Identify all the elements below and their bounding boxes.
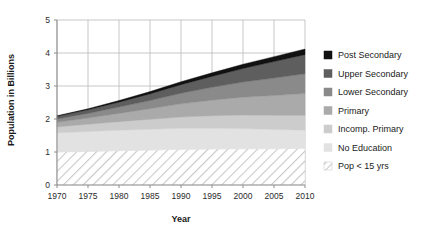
- y-tick-label: 4: [45, 48, 50, 58]
- x-tick-label: 1980: [110, 191, 129, 201]
- y-tick-label: 0: [45, 180, 50, 190]
- legend-item[interactable]: Post Secondary: [324, 50, 402, 60]
- x-tick-label: 2005: [265, 191, 284, 201]
- legend-label: Post Secondary: [338, 50, 402, 60]
- chart-canvas: 197019751980198519901995200020052010 012…: [0, 0, 430, 233]
- y-axis-tick-labels: 012345: [45, 15, 57, 190]
- legend-label: Lower Secondary: [338, 87, 409, 97]
- y-tick-label: 1: [45, 147, 50, 157]
- legend-swatch: [324, 162, 332, 170]
- legend-label: No Education: [338, 143, 392, 153]
- legend-label: Incomp. Primary: [338, 124, 404, 134]
- legend-label: Primary: [338, 106, 369, 116]
- legend-swatch: [324, 125, 332, 133]
- x-tick-label: 1970: [48, 191, 67, 201]
- legend-item[interactable]: No Education: [324, 143, 392, 153]
- legend-swatch: [324, 51, 332, 59]
- x-tick-label: 1990: [172, 191, 191, 201]
- x-tick-label: 2010: [296, 191, 315, 201]
- x-tick-label: 2000: [234, 191, 253, 201]
- legend-item[interactable]: Incomp. Primary: [324, 124, 404, 134]
- y-tick-label: 3: [45, 81, 50, 91]
- legend-swatch: [324, 107, 332, 115]
- legend-swatch: [324, 70, 332, 78]
- y-tick-label: 5: [45, 15, 50, 25]
- legend-swatch: [324, 88, 332, 96]
- chart-legend: Post SecondaryUpper SecondaryLower Secon…: [324, 50, 409, 171]
- legend-label: Pop < 15 yrs: [338, 161, 389, 171]
- legend-item[interactable]: Lower Secondary: [324, 87, 409, 97]
- legend-item[interactable]: Pop < 15 yrs: [324, 161, 389, 171]
- x-tick-label: 1995: [203, 191, 222, 201]
- x-tick-label: 1975: [79, 191, 98, 201]
- x-tick-label: 1985: [141, 191, 160, 201]
- x-axis-title: Year: [171, 214, 191, 224]
- legend-swatch: [324, 144, 332, 152]
- y-axis-title: Population in Billions: [6, 54, 16, 146]
- legend-label: Upper Secondary: [338, 69, 409, 79]
- population-education-stacked-area-chart: 197019751980198519901995200020052010 012…: [0, 0, 430, 233]
- y-tick-label: 2: [45, 114, 50, 124]
- legend-item[interactable]: Upper Secondary: [324, 69, 409, 79]
- legend-item[interactable]: Primary: [324, 106, 369, 116]
- x-axis-tick-labels: 197019751980198519901995200020052010: [48, 185, 315, 201]
